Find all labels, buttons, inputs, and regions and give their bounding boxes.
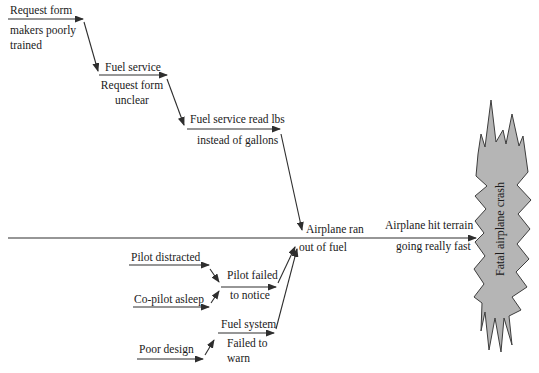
cause-effect-diagram: Request form makers poorly trained Fuel … bbox=[0, 0, 539, 373]
label-failed-to-warn: Failed to warn bbox=[227, 336, 283, 366]
label-request-form-unclear: Request form unclear bbox=[96, 78, 168, 108]
label-instead-of-gallons: instead of gallons bbox=[197, 133, 278, 148]
label-out-of-fuel: out of fuel bbox=[299, 240, 347, 255]
arrow-to-fuel-service-read-lbs bbox=[167, 79, 184, 125]
label-pilot-distracted: Pilot distracted bbox=[131, 250, 200, 265]
arrow-to-airplane-ran-out-of-fuel bbox=[281, 134, 302, 230]
label-fuel-service-read-lbs: Fuel service read lbs bbox=[190, 112, 285, 127]
arrow-poor-design-to-fuel-system bbox=[205, 340, 214, 355]
label-makers-poorly-trained: makers poorly trained bbox=[10, 23, 88, 53]
label-airplane-hit-terrain: Airplane hit terrain bbox=[385, 218, 473, 233]
label-fuel-service: Fuel service bbox=[105, 60, 161, 75]
arrow-fuel-system-to-spine bbox=[276, 249, 297, 329]
label-co-pilot-asleep: Co-pilot asleep bbox=[134, 292, 204, 307]
label-airplane-ran: Airplane ran bbox=[306, 222, 364, 237]
label-going-really-fast: going really fast bbox=[396, 239, 471, 254]
label-request-form: Request form bbox=[10, 3, 72, 18]
label-fuel-system: Fuel system bbox=[221, 317, 276, 332]
label-pilot-failed: Pilot failed bbox=[227, 268, 278, 283]
label-to-notice: to notice bbox=[230, 288, 270, 303]
label-fatal-airplane-crash: Fatal airplane crash bbox=[493, 169, 509, 289]
arrow-pilot-distracted-to-pilot-failed bbox=[210, 269, 219, 282]
arrow-co-pilot-to-pilot-failed bbox=[211, 291, 219, 303]
label-poor-design: Poor design bbox=[139, 342, 194, 357]
